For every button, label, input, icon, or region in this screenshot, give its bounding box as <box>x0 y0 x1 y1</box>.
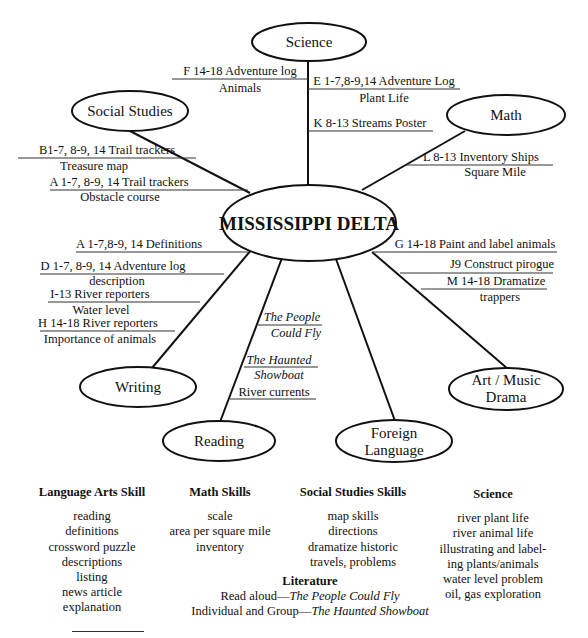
node-art-music-line2: Drama <box>486 389 527 405</box>
activity-title: F 14-18 Adventure log <box>183 64 297 78</box>
skills-language-arts: Language Arts Skill reading definitions … <box>27 485 157 616</box>
literature-line-2-title: The Haunted Showboat <box>311 604 428 618</box>
skill-item: news article <box>27 585 157 600</box>
activity-title: I-13 River reporters <box>50 287 149 301</box>
activity-subtitle: Importance of animals <box>44 332 157 346</box>
node-science: Science <box>252 23 366 61</box>
node-foreign-language: Foreign Language <box>336 420 452 462</box>
node-science-label: Science <box>286 34 333 50</box>
book-title-line1: The People <box>264 310 321 324</box>
activity-title: B1-7, 8-9, 14 Trail trackers <box>39 143 175 157</box>
book-title-line2: Could Fly <box>271 326 322 340</box>
activity-title: A 1-7, 8-9, 14 Trail trackers <box>49 175 188 189</box>
skill-item: definitions <box>27 524 157 539</box>
node-art-music: Art / Music Drama <box>449 368 563 410</box>
literature-section: Literature Read aloud—The People Could F… <box>160 574 460 619</box>
skills-math: Math Skills scale area per square mile i… <box>165 485 275 555</box>
activity-title: H 14-18 River reporters <box>38 316 158 330</box>
skill-item: inventory <box>165 540 275 555</box>
node-math: Math <box>447 95 565 135</box>
literature-line-1-title: The People Could Fly <box>290 589 400 603</box>
skill-item: descriptions <box>27 555 157 570</box>
activity-title: A 1-7,8-9, 14 Definitions <box>76 237 202 251</box>
activity-subtitle: Plant Life <box>359 91 409 105</box>
skill-item: crossword puzzle <box>27 540 157 555</box>
literature-line-1: Read aloud—The People Could Fly <box>160 589 460 604</box>
reading-activities: The People Could Fly The Haunted Showboa… <box>238 310 321 399</box>
activity-subtitle: Obstacle course <box>80 190 160 204</box>
spoke-foreign-language <box>336 259 395 421</box>
node-social-studies: Social Studies <box>72 91 188 131</box>
node-reading: Reading <box>163 421 275 461</box>
art-music-activities: G 14-18 Paint and label animals J9 Const… <box>395 237 556 304</box>
skills-heading: Science <box>428 487 558 502</box>
book-title-line1: The Haunted <box>247 353 313 367</box>
activity-title: River currents <box>238 385 309 399</box>
skill-item: directions <box>293 524 413 539</box>
activity-title: J9 Construct pirogue <box>450 257 555 271</box>
center-label: MISSISSIPPI DELTA <box>219 213 399 234</box>
literature-line-1-prefix: Read aloud— <box>220 589 289 603</box>
skill-item: dramatize historic <box>293 540 413 555</box>
skills-heading: Social Studies Skills <box>293 485 413 500</box>
skill-item: scale <box>165 509 275 524</box>
node-foreign-language-line2: Language <box>364 442 423 458</box>
activity-subtitle: description <box>89 274 145 288</box>
skills-social-studies: Social Studies Skills map skills directi… <box>293 485 413 570</box>
activity-subtitle: Water level <box>73 303 130 317</box>
skill-item: ing plants/animals <box>428 557 558 572</box>
node-reading-label: Reading <box>194 433 244 449</box>
activity-subtitle: Animals <box>219 81 261 95</box>
activity-title: K 8-13 Streams Poster <box>314 116 428 130</box>
skill-item: map skills <box>293 509 413 524</box>
activity-title: E 1-7,8-9,14 Adventure Log <box>313 74 455 88</box>
literature-line-2-prefix: Individual and Group— <box>191 604 311 618</box>
activity-title: M 14-18 Dramatize <box>447 274 546 288</box>
node-math-label: Math <box>490 107 522 123</box>
node-writing: Writing <box>80 367 196 407</box>
book-title-line2: Showboat <box>254 368 304 382</box>
node-social-studies-label: Social Studies <box>87 103 173 119</box>
activity-subtitle: Square Mile <box>464 165 526 179</box>
skills-heading: Language Arts Skill <box>27 485 157 500</box>
activity-title: L 8-13 Inventory Ships <box>423 150 539 164</box>
footer-rule <box>72 631 144 632</box>
literature-line-2: Individual and Group—The Haunted Showboa… <box>160 604 460 619</box>
node-art-music-line1: Art / Music <box>471 372 541 388</box>
skill-item: river plant life <box>428 511 558 526</box>
skill-item: illustrating and label- <box>428 542 558 557</box>
activity-subtitle: Treasure map <box>60 159 128 173</box>
activity-title: D 1-7, 8-9, 14 Adventure log <box>41 259 187 273</box>
social-studies-activities: B1-7, 8-9, 14 Trail trackers Treasure ma… <box>39 143 189 204</box>
writing-activities: A 1-7,8-9, 14 Definitions D 1-7, 8-9, 14… <box>38 237 202 346</box>
activity-title: G 14-18 Paint and label animals <box>395 237 556 251</box>
activity-subtitle: trappers <box>480 290 520 304</box>
skill-item: explanation <box>27 600 157 615</box>
center-node: MISSISSIPPI DELTA <box>219 185 399 261</box>
skill-item: reading <box>27 509 157 524</box>
node-writing-label: Writing <box>115 379 162 395</box>
skill-item: river animal life <box>428 526 558 541</box>
science-activities: F 14-18 Adventure log Animals E 1-7,8-9,… <box>183 64 455 130</box>
skill-item: travels, problems <box>293 555 413 570</box>
literature-heading: Literature <box>160 574 460 589</box>
skill-item: area per square mile <box>165 524 275 539</box>
skills-heading: Math Skills <box>165 485 275 500</box>
skill-item: listing <box>27 570 157 585</box>
node-foreign-language-line1: Foreign <box>371 425 418 441</box>
